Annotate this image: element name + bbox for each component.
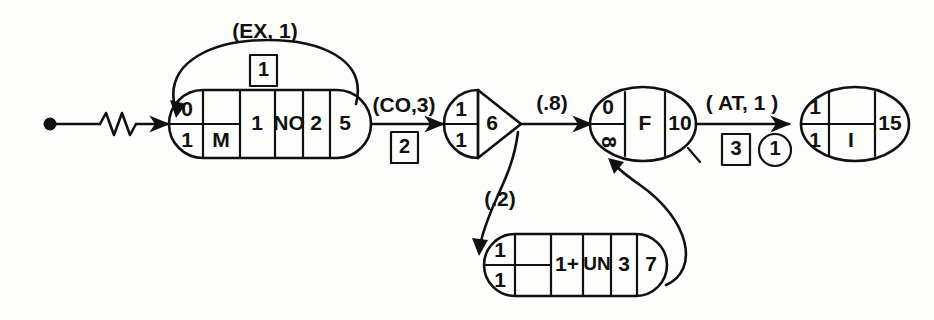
node-un[interactable]: 1 1 1+ UN 3 7	[484, 234, 667, 296]
node-6-cell-right: 6	[486, 111, 498, 134]
node-m-cell-bottom-second: M	[212, 128, 230, 151]
edge-co-badge-value: 2	[399, 135, 410, 157]
edge-at-badge-box-value: 3	[730, 137, 741, 159]
node-un-cell-c5: 3	[618, 252, 630, 275]
edge-at-badge-circle-value: 1	[769, 137, 780, 159]
start-dot-icon	[44, 118, 57, 131]
node-f-cell-top-left: 0	[602, 95, 614, 118]
node-m-cell-c3: 1	[251, 111, 263, 134]
resistor-zigzag-icon	[100, 113, 136, 135]
edge-at-label: ( AT, 1 )	[706, 91, 778, 114]
start-marker	[44, 113, 169, 135]
node-f-tick-mark	[688, 148, 700, 162]
node-un-cell-c6: 7	[645, 252, 657, 275]
node-f-cell-c3: 10	[668, 111, 691, 134]
node-m-cell-c6: 5	[339, 111, 351, 134]
node-6-cell-top-left: 1	[455, 97, 467, 120]
node-6-cell-bottom-left: 1	[455, 128, 467, 151]
edge-at[interactable]: ( AT, 1 ) 3 1	[696, 91, 791, 166]
node-un-cell-top-left: 1	[494, 238, 506, 261]
node-m[interactable]: 0 1 M 1 NO 2 5	[169, 90, 371, 158]
edge-co-label: (CO,3)	[373, 93, 436, 116]
node-i-cell-top-left: 1	[809, 95, 821, 118]
node-m-cell-bottom-left: 1	[181, 128, 193, 151]
edge-co[interactable]: (CO,3) 2	[371, 93, 443, 163]
node-un-cell-c3: 1+	[555, 252, 579, 275]
node-f-cell-bottom-left: 8	[598, 136, 621, 148]
diagram-canvas: 0 1 M 1 NO 2 5 (EX, 1) 1 (CO,3) 2	[0, 0, 934, 320]
node-m-cell-c5: 2	[310, 111, 322, 134]
edge-02-label: (.2)	[484, 187, 516, 210]
node-i-cell-bottom-second: I	[848, 128, 854, 151]
edge-self-ex-badge-value: 1	[258, 58, 269, 80]
node-m-cell-c4: NO	[273, 111, 305, 134]
node-un-cell-bottom-left: 1	[494, 268, 506, 291]
node-f-cell-c2: F	[639, 111, 652, 134]
network-diagram-svg: 0 1 M 1 NO 2 5 (EX, 1) 1 (CO,3) 2	[0, 0, 934, 320]
edge-08[interactable]: (.8)	[521, 91, 591, 124]
edge-self-ex-label: (EX, 1)	[232, 19, 297, 42]
node-i[interactable]: 1 1 I 15	[801, 87, 909, 161]
node-i-cell-bottom-left: 1	[809, 128, 821, 151]
node-un-cell-c4: UN	[583, 253, 610, 274]
edge-08-label: (.8)	[536, 91, 568, 114]
node-i-cell-c3: 15	[878, 111, 902, 134]
node-f[interactable]: 0 8 F 10	[590, 87, 700, 162]
node-6[interactable]: 1 1 6	[444, 90, 521, 158]
